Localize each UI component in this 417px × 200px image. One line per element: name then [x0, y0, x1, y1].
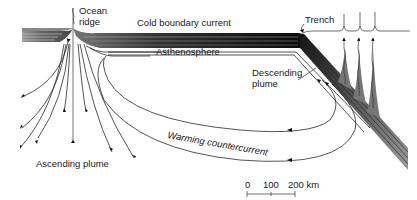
- label-trench: Trench: [305, 14, 334, 25]
- scale-tick-100: 100: [263, 179, 279, 190]
- ascending-plume-flowlines: [20, 42, 136, 158]
- label-ascending-plume: Ascending plume: [36, 158, 109, 169]
- left-lithosphere-plate: [22, 28, 73, 42]
- label-descending-plume-1: Descending: [252, 67, 302, 78]
- arrowhead-icon: [71, 140, 75, 143]
- scale-bar: 0 100 200 km: [245, 179, 319, 197]
- arrowhead-icon: [287, 158, 292, 162]
- label-cold-boundary-current: Cold boundary current: [137, 17, 231, 28]
- surface-line: [303, 26, 410, 33]
- arrowhead-icon: [20, 125, 23, 129]
- label-warming-countercurrent: Warming countercurrent: [167, 129, 269, 158]
- label-asthenosphere: Asthenosphere: [156, 46, 220, 57]
- scale-tick-0: 0: [245, 179, 250, 190]
- mantle-convection-diagram: Ocean ridge Cold boundary current Trench…: [0, 0, 417, 200]
- arrowhead-icon: [109, 147, 113, 151]
- arrowhead-icon: [35, 140, 38, 144]
- right-lithosphere-plate: [73, 28, 304, 48]
- arrowhead-icon: [21, 94, 25, 98]
- scale-tick-200: 200 km: [288, 179, 319, 190]
- label-ocean-ridge-2: ridge: [79, 16, 100, 27]
- subducting-slab: [298, 33, 408, 170]
- label-descending-plume-2: plume: [252, 78, 278, 89]
- label-ocean-ridge-1: Ocean: [79, 5, 107, 16]
